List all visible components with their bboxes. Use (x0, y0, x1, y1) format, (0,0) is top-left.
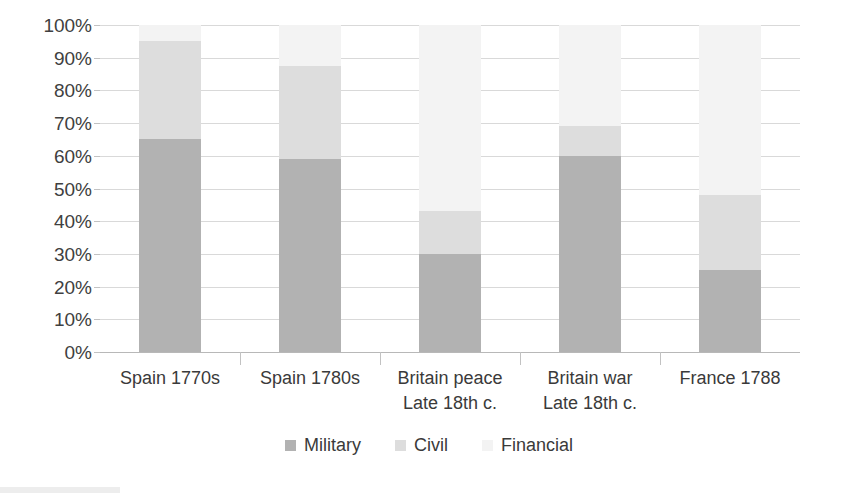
legend-label: Military (304, 436, 361, 454)
bar-segment-financial[interactable] (279, 25, 341, 66)
category-label: Spain 1770s (100, 366, 240, 391)
bar-segment-financial[interactable] (559, 25, 621, 126)
legend-item-financial[interactable]: Financial (482, 436, 573, 454)
bar-stack[interactable] (139, 25, 201, 352)
legend-label: Civil (414, 436, 448, 454)
bar-stack[interactable] (419, 25, 481, 352)
bar-segment-civil[interactable] (139, 41, 201, 139)
bar-segment-military[interactable] (699, 270, 761, 352)
category-label-line-1: Spain 1770s (120, 368, 220, 388)
bar-stack[interactable] (559, 25, 621, 352)
category-separator (660, 352, 661, 365)
category-axis-labels: Spain 1770sSpain 1780sBritain peaceLate … (100, 366, 800, 422)
category-separator (520, 352, 521, 365)
category-label: Britain peaceLate 18th c. (380, 366, 520, 416)
bar-segment-civil[interactable] (699, 195, 761, 270)
legend-item-civil[interactable]: Civil (395, 436, 448, 454)
y-tick-label: 50% (54, 179, 92, 198)
bar-segment-military[interactable] (279, 159, 341, 352)
category-label-line-1: France 1788 (679, 368, 780, 388)
bar-segment-civil[interactable] (279, 66, 341, 159)
category-separator (380, 352, 381, 365)
y-tick-label: 30% (54, 244, 92, 263)
y-axis: 100%90%80%70%60%50%40%30%20%10%0% (0, 25, 92, 352)
category-separator (240, 352, 241, 365)
bar-segment-civil[interactable] (559, 126, 621, 155)
category-label-line-2: Late 18th c. (380, 391, 520, 416)
legend-swatch-icon (482, 440, 493, 451)
legend-item-military[interactable]: Military (285, 436, 361, 454)
legend-swatch-icon (285, 440, 296, 451)
y-tick-label: 60% (54, 146, 92, 165)
bar-segment-civil[interactable] (419, 211, 481, 254)
category-label-line-2: Late 18th c. (520, 391, 660, 416)
bar-stack[interactable] (279, 25, 341, 352)
bar-group (240, 25, 380, 352)
legend-label: Financial (501, 436, 573, 454)
bar-segment-financial[interactable] (419, 25, 481, 211)
bar-segment-military[interactable] (139, 139, 201, 352)
category-label-line-1: Britain war (547, 368, 632, 388)
bar-group (520, 25, 660, 352)
scan-artifact (0, 487, 120, 493)
category-label: France 1788 (660, 366, 800, 391)
stacked-bar-chart: 100%90%80%70%60%50%40%30%20%10%0% Spain … (0, 0, 858, 500)
y-tick-label: 10% (54, 310, 92, 329)
bar-group (660, 25, 800, 352)
y-tick-label: 80% (54, 81, 92, 100)
y-tick-label: 40% (54, 212, 92, 231)
y-tick-label: 0% (65, 343, 92, 362)
legend-swatch-icon (395, 440, 406, 451)
y-tick-label: 70% (54, 114, 92, 133)
bar-stack[interactable] (699, 25, 761, 352)
plot-area (100, 25, 800, 352)
category-label: Spain 1780s (240, 366, 380, 391)
category-label: Britain warLate 18th c. (520, 366, 660, 416)
chart-legend: MilitaryCivilFinancial (0, 436, 858, 454)
bar-segment-financial[interactable] (139, 25, 201, 41)
y-tick-label: 100% (43, 16, 92, 35)
bar-segment-military[interactable] (559, 156, 621, 352)
bar-group (380, 25, 520, 352)
y-tick-label: 90% (54, 48, 92, 67)
category-label-line-1: Spain 1780s (260, 368, 360, 388)
bar-group (100, 25, 240, 352)
y-tick-label: 20% (54, 277, 92, 296)
category-label-line-1: Britain peace (397, 368, 502, 388)
bar-segment-financial[interactable] (699, 25, 761, 195)
bar-segment-military[interactable] (419, 254, 481, 352)
